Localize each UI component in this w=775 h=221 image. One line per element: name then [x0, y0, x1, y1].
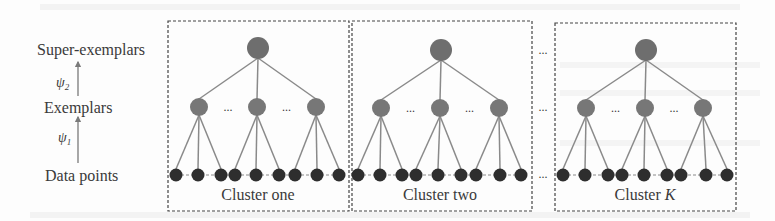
edge-data-exemplar [416, 116, 440, 169]
edge-data-exemplar [316, 115, 317, 169]
exemplar-node [431, 99, 449, 117]
data-point-node [215, 169, 228, 182]
data-point-node [557, 169, 570, 182]
edge-exemplar-super [441, 60, 499, 100]
between-cluster-ellipses: ... ... ... [539, 43, 548, 181]
exemplar-ellipsis: ... [224, 100, 233, 114]
exemplar-ellipsis: ... [670, 101, 679, 115]
exemplar-ellipsis: ... [465, 101, 474, 115]
edge-data-exemplar [256, 115, 257, 169]
data-point-node [579, 169, 592, 182]
edge-data-exemplar [381, 116, 402, 169]
data-point-node [470, 169, 483, 182]
data-point-node [273, 169, 286, 182]
exemplar-node [190, 98, 208, 116]
data-point-node [229, 169, 242, 182]
psi2-label: ψ2 [56, 75, 70, 92]
edge-data-exemplar [176, 115, 199, 169]
edge-exemplar-super [381, 60, 441, 100]
data-point-node [638, 169, 651, 182]
cluster-label: Cluster K [615, 186, 677, 203]
data-point-node [170, 169, 183, 182]
cluster-1: ......Cluster one [168, 21, 349, 211]
ellipsis-data: ... [539, 167, 548, 181]
edge-exemplar-super [645, 60, 646, 100]
data-point-node [289, 169, 302, 182]
cluster-label: Cluster one [221, 186, 294, 203]
exemplar-node [577, 99, 595, 117]
super-exemplar-node [430, 39, 452, 61]
edge-data-exemplar [499, 116, 500, 169]
cluster-2: ......Cluster two [352, 21, 533, 211]
edge-data-exemplar [257, 115, 279, 169]
edge-data-exemplar [199, 115, 221, 169]
exemplar-node [636, 99, 654, 117]
data-point-node [311, 169, 324, 182]
super-exemplar-node [635, 39, 657, 61]
data-point-node [333, 169, 346, 182]
data-point-node [396, 169, 409, 182]
edge-data-exemplar [316, 115, 339, 169]
edge-data-exemplar [380, 116, 381, 169]
edge-exemplar-super [258, 58, 316, 99]
data-point-node [616, 169, 629, 182]
edge-data-exemplar [476, 116, 499, 169]
data-point-node [494, 169, 507, 182]
data-point-node [432, 169, 445, 182]
data-point-node [192, 169, 205, 182]
ellipsis-super: ... [539, 43, 548, 57]
data-point-node [455, 169, 468, 182]
exemplar-node [372, 99, 390, 117]
edge-data-exemplar [440, 116, 461, 169]
edge-exemplar-super [257, 58, 258, 99]
data-point-node [661, 169, 674, 182]
exemplar-node [307, 98, 325, 116]
exemplar-ellipsis: ... [282, 100, 291, 114]
edge-data-exemplar [235, 115, 257, 169]
exemplar-node [490, 99, 508, 117]
data-point-node [250, 169, 263, 182]
cluster-3: ......Cluster K [555, 23, 736, 211]
data-point-node [374, 169, 387, 182]
exemplar-ellipsis: ... [406, 101, 415, 115]
edge-data-exemplar [644, 116, 645, 169]
exemplar-ellipsis: ... [611, 101, 620, 115]
data-points-label: Data points [45, 167, 118, 185]
data-point-node [410, 169, 423, 182]
cluster-label: Cluster two [403, 186, 477, 203]
edge-data-exemplar [438, 116, 440, 169]
data-point-node [721, 169, 734, 182]
edge-data-exemplar [295, 115, 316, 169]
data-point-node [352, 169, 365, 182]
data-point-node [515, 169, 528, 182]
data-point-node [700, 169, 713, 182]
data-point-node [602, 169, 615, 182]
clusters: ......Cluster one......Cluster two......… [168, 21, 736, 211]
level-legend: Super-exemplars Exemplars Data points ψ2… [37, 41, 145, 185]
edge-data-exemplar [198, 115, 199, 169]
super-exemplars-label: Super-exemplars [37, 41, 145, 59]
edge-data-exemplar [585, 116, 586, 169]
exemplars-label: Exemplars [44, 99, 112, 117]
edge-data-exemplar [499, 116, 521, 169]
super-exemplar-node [247, 37, 269, 59]
exemplar-node [694, 99, 712, 117]
ellipsis-exemplar: ... [539, 100, 548, 114]
edge-exemplar-super [440, 60, 441, 100]
diagram-canvas: Super-exemplars Exemplars Data points ψ2… [0, 0, 775, 221]
exemplar-node [248, 98, 266, 116]
edge-exemplar-super [199, 58, 258, 99]
edge-data-exemplar [358, 116, 381, 169]
hierarchy-diagram: Super-exemplars Exemplars Data points ψ2… [0, 0, 775, 221]
data-point-node [675, 169, 688, 182]
psi1-label: ψ1 [58, 130, 71, 147]
